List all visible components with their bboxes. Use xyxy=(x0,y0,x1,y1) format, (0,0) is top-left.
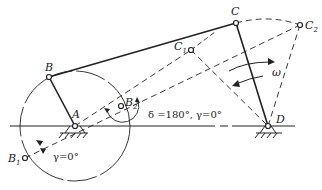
joint-a xyxy=(73,124,78,129)
omega-arrow-upper-head xyxy=(268,58,275,65)
label-c: C xyxy=(231,5,240,18)
gamma-arrow-lower xyxy=(40,148,46,154)
label-c1: C1 xyxy=(174,40,187,55)
gamma-arrow-upper xyxy=(36,140,43,146)
joints xyxy=(23,21,303,161)
omega-arrow-lower xyxy=(236,76,263,84)
linkage-diagram: A B B1 B2 C C1 C2 D δ =180°, γ=0° γ=0° ω xyxy=(0,0,322,190)
link-bc xyxy=(49,23,236,77)
joint-b2 xyxy=(119,104,124,109)
joint-c xyxy=(234,21,239,26)
gamma-annotation: γ=0° xyxy=(53,151,79,162)
joint-d xyxy=(266,124,271,129)
omega-arrow-lower-head xyxy=(232,80,240,87)
joint-b xyxy=(47,75,52,80)
delta-arrow-left xyxy=(104,108,110,113)
omega-label: ω xyxy=(272,66,281,79)
label-c2: C2 xyxy=(305,19,318,34)
joint-c2 xyxy=(298,23,303,28)
label-b1: B1 xyxy=(7,152,21,167)
label-b2: B2 xyxy=(124,96,138,111)
rocker-arc xyxy=(236,19,300,25)
label-d: D xyxy=(275,113,285,126)
delta-gamma-annotation: δ =180°, γ=0° xyxy=(148,109,222,120)
joint-b1 xyxy=(23,156,28,161)
label-b: B xyxy=(44,61,53,74)
label-a: A xyxy=(71,108,80,121)
joint-c1 xyxy=(189,48,194,53)
